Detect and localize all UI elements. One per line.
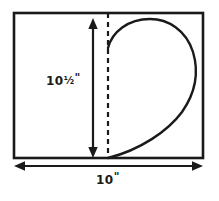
width-whole-number: 10 (96, 173, 114, 187)
width-dimension-label: 10" (96, 171, 120, 186)
height-whole-number: 10 (46, 74, 64, 88)
height-arrowhead-up-icon (88, 18, 97, 29)
heart-pattern-diagram: 10½" 10" (0, 0, 219, 201)
width-arrowhead-right-icon (192, 161, 203, 170)
height-dimension-label: 10½" (46, 72, 81, 87)
width-arrowhead-left-icon (14, 161, 25, 170)
height-inch-mark: " (75, 71, 81, 84)
width-inch-mark: " (114, 170, 120, 183)
half-heart-curve (108, 19, 196, 158)
height-arrowhead-down-icon (88, 147, 97, 158)
height-fraction: ½ (64, 75, 75, 86)
